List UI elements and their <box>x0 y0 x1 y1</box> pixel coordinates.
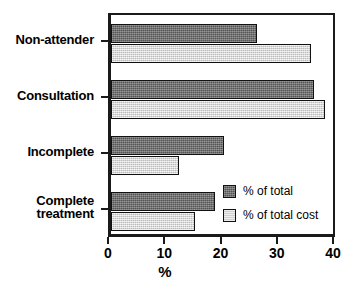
x-axis-tick-0 <box>107 237 109 244</box>
legend-swatch-total-cost <box>223 209 236 222</box>
x-axis-tick-label-0: 0 <box>88 246 128 260</box>
category-label-non-attender: Non-attender <box>16 33 95 46</box>
category-label-incomplete: Incomplete <box>27 145 94 158</box>
category-label-complete-treatment: Completetreatment <box>36 194 94 220</box>
x-axis-tick-10 <box>163 237 165 244</box>
bar-incomplete-series-1 <box>111 156 179 175</box>
x-axis-title-text: % <box>158 263 171 280</box>
x-axis-tick-20 <box>220 237 222 244</box>
bar-complete-treatment-series-1 <box>111 212 195 231</box>
bar-non-attender-series-1 <box>111 44 311 63</box>
x-axis-tick-label-20: 20 <box>201 246 241 260</box>
legend-label-total-cost: % of total cost <box>243 209 318 222</box>
bar-complete-treatment-series-0 <box>111 192 215 211</box>
category-label-consultation: Consultation <box>17 89 94 102</box>
x-axis-tick-40 <box>332 237 334 244</box>
plot-area: % of total % of total cost <box>108 13 335 237</box>
legend-swatch-total <box>223 185 236 198</box>
legend-item-0: % of total <box>223 185 293 198</box>
category-label-line: Incomplete <box>27 144 94 159</box>
x-axis-tick-label-40: 40 <box>313 246 346 260</box>
x-axis-title: % <box>0 263 346 280</box>
bar-consultation-series-1 <box>111 100 325 119</box>
bar-non-attender-series-0 <box>111 24 257 43</box>
x-axis-tick-label-30: 30 <box>257 246 297 260</box>
category-label-line: Non-attender <box>16 32 95 47</box>
bar-consultation-series-0 <box>111 80 314 99</box>
bar-chart: Non-attenderConsultationIncompleteComple… <box>0 0 346 288</box>
x-axis-tick-label-10: 10 <box>144 246 184 260</box>
bars-layer <box>111 15 333 234</box>
legend-label-total: % of total <box>243 185 293 198</box>
category-label-line: Consultation <box>17 88 94 103</box>
category-label-line: treatment <box>36 207 94 220</box>
legend-item-1: % of total cost <box>223 209 318 222</box>
x-axis-tick-30 <box>276 237 278 244</box>
bar-incomplete-series-0 <box>111 136 224 155</box>
